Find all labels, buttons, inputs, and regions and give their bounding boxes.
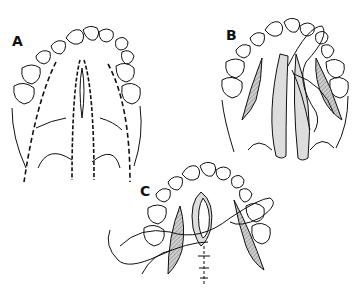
panel-c-relaxing-incision-right (234, 200, 264, 270)
panel-a-teeth (12, 26, 141, 168)
panel-b-flap-left (272, 54, 288, 158)
panel-c-relaxing-incision-left (168, 206, 184, 274)
panel-c-arch (108, 162, 273, 286)
panel-b-arch (222, 18, 349, 160)
panel-a-cleft-left (72, 60, 80, 180)
panel-a-arch (12, 26, 141, 182)
panel-a-vomer (80, 68, 84, 118)
cleft-palate-diagram (0, 0, 364, 289)
panel-b-relaxing-incision-left (242, 58, 262, 120)
panel-b-flap-right (294, 54, 309, 160)
